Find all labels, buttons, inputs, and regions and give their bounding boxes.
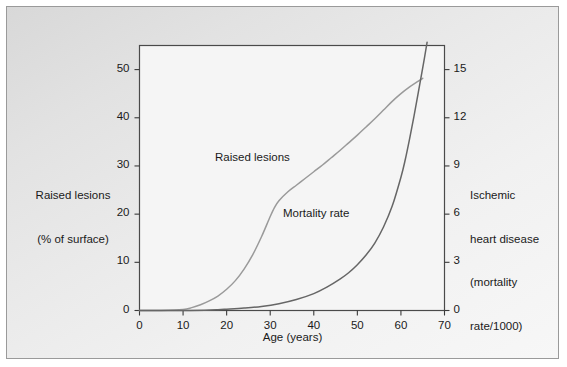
tick-label-left-30: 30 xyxy=(106,158,130,170)
tick-label-right-15: 15 xyxy=(454,62,478,74)
x-axis-title: Age (years) xyxy=(225,330,360,345)
tick-label-left-50: 50 xyxy=(106,62,130,74)
tick-label-left-0: 0 xyxy=(106,303,130,315)
tick-label-bottom-20: 20 xyxy=(215,319,239,331)
tick-label-bottom-10: 10 xyxy=(171,319,195,331)
series-label-raised-lesions: Raised lesions xyxy=(215,151,290,163)
right-axis-title-line4: rate/1000) xyxy=(470,319,566,334)
right-axis-title-line2: heart disease xyxy=(470,232,566,247)
left-axis-title-line2: (% of surface) xyxy=(14,232,132,247)
plot-area-background xyxy=(140,46,445,311)
tick-label-left-20: 20 xyxy=(106,206,130,218)
tick-label-right-9: 9 xyxy=(454,158,478,170)
tick-label-left-40: 40 xyxy=(106,110,130,122)
tick-label-bottom-40: 40 xyxy=(302,319,326,331)
left-axis-title-line1: Raised lesions xyxy=(14,188,132,203)
tick-label-right-12: 12 xyxy=(454,110,478,122)
tick-label-right-3: 3 xyxy=(454,254,478,266)
right-axis-title-line1: Ischemic xyxy=(470,188,566,203)
tick-label-bottom-0: 0 xyxy=(128,319,152,331)
tick-label-left-10: 10 xyxy=(106,254,130,266)
tick-label-bottom-50: 50 xyxy=(345,319,369,331)
tick-label-bottom-30: 30 xyxy=(258,319,282,331)
right-axis-title: Ischemic heart disease (mortality rate/1… xyxy=(470,159,566,362)
tick-label-right-0: 0 xyxy=(454,303,478,315)
right-axis-title-line3: (mortality xyxy=(470,275,566,290)
tick-label-bottom-70: 70 xyxy=(433,319,457,331)
tick-label-bottom-60: 60 xyxy=(389,319,413,331)
figure-root: Raised lesions (% of surface) Ischemic h… xyxy=(0,0,567,367)
tick-label-right-6: 6 xyxy=(454,206,478,218)
series-label-mortality-rate: Mortality rate xyxy=(283,207,349,219)
